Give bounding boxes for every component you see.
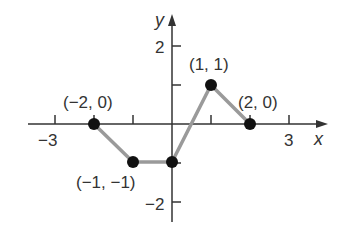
y-axis — [168, 14, 176, 222]
x-axis — [28, 120, 328, 128]
x-axis-arrow-icon — [316, 120, 328, 128]
y-axis-label: y — [153, 10, 165, 30]
annotation-1-1: (1, 1) — [189, 55, 229, 74]
y-axis-arrow-icon — [168, 14, 176, 26]
point-2-0 — [244, 118, 256, 130]
annotation-2-0: (2, 0) — [238, 93, 278, 112]
point-0-neg1 — [166, 156, 178, 168]
point-neg1-neg1 — [127, 156, 139, 168]
annotation-neg1-neg1: (−1, −1) — [76, 173, 136, 192]
tick-label-x-neg3: −3 — [38, 131, 57, 150]
point-neg2-0 — [88, 118, 100, 130]
tick-label-y-neg2: −2 — [145, 195, 164, 214]
tick-label-x-3: 3 — [284, 131, 293, 150]
annotation-neg2-0: (−2, 0) — [63, 93, 113, 112]
point-1-1 — [205, 79, 217, 91]
chart: y x −3 3 2 −2 (−2, 0) (−1, −1) (1, 1) (2… — [0, 0, 343, 232]
x-axis-label: x — [313, 129, 324, 149]
tick-label-y-2: 2 — [155, 38, 164, 57]
